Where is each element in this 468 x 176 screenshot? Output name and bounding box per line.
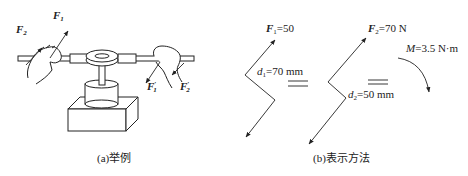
panel-b-representation: F1=50 d1=70 mm F2=70 N d2=50 mm M=3.5 N·… xyxy=(245,22,458,165)
left-hand xyxy=(27,45,61,84)
right-hand xyxy=(153,46,182,88)
couple-1-force-label: F1=50 xyxy=(265,22,295,36)
couple-1 xyxy=(245,40,275,137)
moment-arc xyxy=(398,58,429,92)
label-f2: F2 xyxy=(15,23,27,37)
couple-1-arm-label: d1=70 mm xyxy=(257,65,304,79)
label-f1-prime: F′1 xyxy=(146,80,157,94)
label-f2-prime: F′2 xyxy=(179,80,190,94)
caption-b: (b)表示方法 xyxy=(313,151,370,165)
couple-diagram: F2 F1 F′1 F′2 (a)举例 F1=50 d1=70 mm F2=70… xyxy=(0,0,468,176)
panel-a-illustration: F2 F1 F′1 F′2 (a)举例 xyxy=(15,9,194,165)
equals-sign-1 xyxy=(288,81,308,86)
couple-2-arm-label: d2=50 mm xyxy=(348,88,395,102)
moment-label: M=3.5 N·m xyxy=(405,42,458,54)
couple-2-force-label: F2=70 N xyxy=(367,22,407,36)
equals-sign-2 xyxy=(368,80,388,84)
caption-a: (a)举例 xyxy=(97,151,131,165)
label-f1: F1 xyxy=(52,9,64,23)
